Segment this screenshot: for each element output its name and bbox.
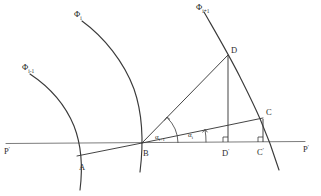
label-point-a: A xyxy=(79,162,86,172)
label-angle-alpha-i-plus-1: αi+1 xyxy=(155,133,166,142)
label-point-cprime-sup: ' xyxy=(263,147,264,153)
label-point-dprime: D' xyxy=(222,148,229,159)
label-curve-phi-i-plus-1-sub: i+1 xyxy=(202,8,210,14)
label-point-cprime: C' xyxy=(257,147,264,158)
right-angle-mark-dprime xyxy=(223,137,228,142)
label-curve-phi-i-minus-1-sub: i-1 xyxy=(28,68,34,74)
label-curve-phi-i-sub: i xyxy=(80,15,82,21)
label-axis-left-sup: ' xyxy=(9,146,10,152)
label-point-dprime-sup: ' xyxy=(228,148,229,154)
angle-arc-alpha-i xyxy=(205,130,206,143)
label-angle-alpha-i-plus-1-sub: i+1 xyxy=(159,137,166,142)
label-axis-left: P' xyxy=(4,146,10,157)
geometry-canvas: Φi-1 Φi Φi+1 P' P' A B C D D' C' αi+1 xyxy=(0,0,321,196)
curve-phi-i-plus-1 xyxy=(204,12,279,170)
segment-b-d xyxy=(142,55,228,143)
angle-arc-alpha-i-plus-1 xyxy=(167,118,178,143)
label-angle-alpha-i-sub: i xyxy=(192,135,194,140)
label-axis-right: P' xyxy=(303,144,309,155)
label-curve-phi-i-plus-1: Φi+1 xyxy=(196,2,210,14)
geometry-diagram: Φi-1 Φi Φi+1 P' P' A B C D D' C' αi+1 xyxy=(0,0,321,196)
label-curve-phi-i-minus-1: Φi-1 xyxy=(22,62,35,74)
label-point-c: C xyxy=(266,107,272,117)
label-curve-phi-i: Φi xyxy=(74,9,82,21)
label-point-b: B xyxy=(143,148,149,158)
label-point-d: D xyxy=(231,45,237,55)
horizontal-reference-line xyxy=(6,142,305,144)
segment-a-b xyxy=(77,143,142,156)
curve-phi-i-minus-1 xyxy=(30,74,81,190)
label-axis-right-sup: ' xyxy=(308,144,309,150)
